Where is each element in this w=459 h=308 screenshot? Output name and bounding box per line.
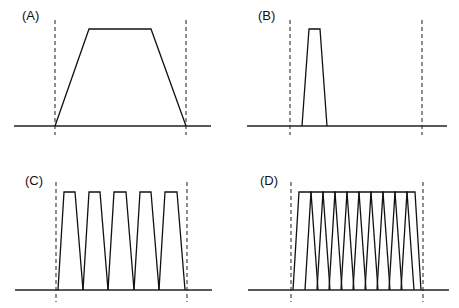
panel-label-a: (A)	[22, 8, 39, 23]
panel-label-d: (D)	[260, 173, 278, 188]
pulse-c-2	[83, 192, 108, 290]
diagram-canvas	[0, 0, 459, 308]
pulse-b-1	[302, 29, 327, 126]
pulse-c-5	[159, 192, 185, 290]
pulse-c-3	[108, 192, 134, 290]
panel-label-b: (B)	[258, 8, 275, 23]
pulse-c-4	[134, 192, 159, 290]
panel-label-c: (C)	[25, 173, 43, 188]
pulse-a-1	[55, 29, 186, 126]
pulse-c-1	[58, 192, 83, 290]
